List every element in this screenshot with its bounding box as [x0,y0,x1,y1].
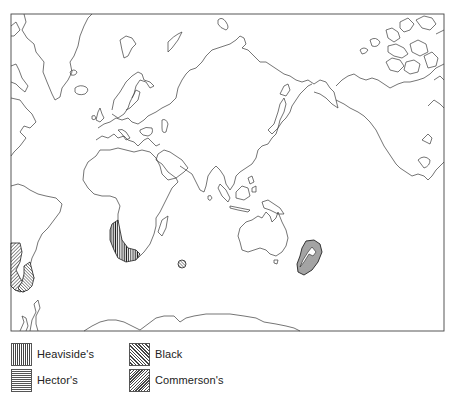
world-map [0,0,457,405]
map-frame [11,14,444,331]
range-commerson-kerguelen [178,260,186,268]
